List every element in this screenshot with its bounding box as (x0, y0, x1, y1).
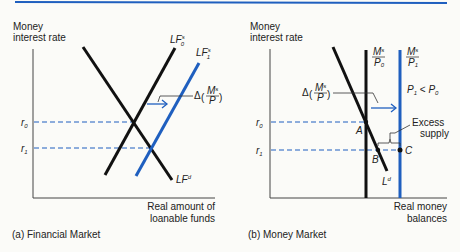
panel-b-y-label-line1: Money (250, 21, 280, 32)
panel-a-y-label-line2: interest rate (13, 32, 66, 43)
panel-b-x-label-line1: Real money (394, 201, 447, 212)
panel-a-r1-label: r1 (21, 143, 28, 155)
panel-a-lfd-label: LFd (176, 174, 192, 185)
point-b-label: B (372, 154, 379, 165)
excess-supply-bracket (378, 139, 400, 146)
svg-text:Ms: Ms (407, 46, 418, 57)
panel-b-shift-rparen: ) (327, 89, 330, 100)
panel-a-lf0s-label: LFs0 (170, 34, 185, 47)
panel-a-financial-market: Money interest rate r0 r1 LFs0 LFs1 LFd … (12, 21, 222, 240)
panel-b-ld-label: Ld (382, 176, 392, 187)
svg-text:P1: P1 (408, 57, 418, 68)
svg-text:P0: P0 (374, 57, 385, 68)
panel-b-ms-p0-label: Ms P0 (372, 46, 385, 68)
excess-supply-label-line1: Excess (412, 117, 444, 128)
panel-a-shift-delta: Δ (194, 90, 201, 101)
panel-b-x-label-line2: balances (407, 213, 447, 224)
svg-text:Ms: Ms (373, 46, 384, 57)
panel-a-lf1s-curve (136, 63, 199, 176)
panel-b-ms-p1-label: Ms P1 (406, 46, 419, 68)
panel-a-x-label-line2: loanable funds (150, 213, 215, 224)
panel-b-money-market: Money interest rate r0 r1 Ms P0 Ms P1 P1… (248, 21, 449, 240)
panel-b-shift-den: P (317, 92, 324, 103)
panel-a-caption: (a) Financial Market (12, 229, 101, 240)
panel-a-lf1s-label: LFs1 (196, 47, 211, 60)
point-a-label: A (355, 125, 363, 136)
panel-b-caption: (b) Money Market (248, 229, 327, 240)
panel-b-shift-label: Δ ( Ms P ) (302, 82, 330, 103)
point-a-marker (364, 120, 368, 124)
diagram-canvas: Money interest rate r0 r1 LFs0 LFs1 LFd … (0, 0, 460, 252)
panel-a-shift-den: P (209, 95, 216, 106)
panel-b-shift-delta: Δ (302, 87, 309, 98)
panel-b-price-condition: P1 < P0 (407, 84, 439, 96)
panel-a-shift-label: Δ ( Ms P ) (194, 85, 222, 106)
panel-a-r0-label: r0 (21, 117, 28, 129)
panel-a-shift-rparen: ) (219, 92, 222, 103)
panel-a-x-label-line1: Real amount of (147, 201, 215, 212)
point-c-label: C (405, 145, 413, 156)
panel-b-y-label-line2: interest rate (250, 32, 303, 43)
panel-a-lf0s-curve (105, 48, 175, 175)
point-c-marker (398, 148, 403, 153)
panel-b-r1-label: r1 (256, 145, 263, 157)
point-b-marker (376, 148, 380, 152)
panel-b-shift-lparen: ( (309, 89, 313, 100)
panel-a-shift-lparen: ( (201, 92, 205, 103)
panel-a-y-label-line1: Money (13, 21, 43, 32)
top-rule (15, 2, 447, 3)
excess-supply-label-line2: supply (420, 128, 449, 139)
panel-b-r0-label: r0 (256, 117, 263, 129)
panel-a-lfd-curve (83, 47, 172, 180)
